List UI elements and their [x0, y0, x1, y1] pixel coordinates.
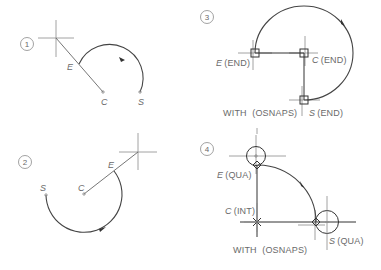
panel-number-2: 2	[23, 158, 28, 167]
label-center: C	[101, 97, 108, 107]
label-center: C	[78, 183, 85, 193]
start-point-marker	[138, 90, 142, 94]
panel-number-badge-4: 4	[201, 143, 214, 156]
label-end: E(QUA)	[217, 170, 252, 180]
arc-direction-arrow-icon	[119, 57, 125, 62]
panel-number-1: 1	[25, 40, 30, 49]
panel-3: 3 E(END) C(END) S(END) WITH (OSNAPS)	[201, 6, 354, 134]
label-start: S(QUA)	[329, 236, 364, 246]
panel-2: 2 S C E	[19, 135, 158, 232]
arc-direction-arrow-icon	[341, 19, 345, 26]
label-start: S(END)	[309, 108, 343, 118]
panel-1: 1 E C S	[21, 20, 145, 135]
label-start: S	[138, 97, 144, 107]
osnap-caption: WITH (OSNAPS)	[223, 108, 297, 118]
radius-line	[56, 38, 103, 92]
panel-4: 4	[201, 135, 364, 255]
panel-number-3: 3	[205, 13, 210, 22]
arc-direction-arrow-icon	[300, 181, 304, 188]
radius-line	[84, 152, 138, 194]
panel-number-badge-2: 2	[19, 156, 32, 169]
arc-path	[46, 171, 122, 232]
label-end: E	[67, 62, 74, 72]
label-center: C(INT)	[225, 206, 255, 216]
label-end: E	[108, 160, 115, 170]
arc-path	[258, 165, 316, 222]
panel-number-4: 4	[205, 145, 210, 154]
panel-number-badge-3: 3	[201, 11, 214, 24]
start-point-marker	[44, 193, 48, 197]
arc-path	[79, 44, 143, 92]
panel-number-badge-1: 1	[21, 38, 34, 51]
label-start: S	[40, 183, 46, 193]
label-center: C(END)	[312, 55, 347, 65]
label-end: E(END)	[216, 58, 250, 68]
osnap-caption: WITH (OSNAPS)	[233, 245, 307, 255]
arc-methods-diagram: 1 E C S 3	[0, 0, 381, 270]
